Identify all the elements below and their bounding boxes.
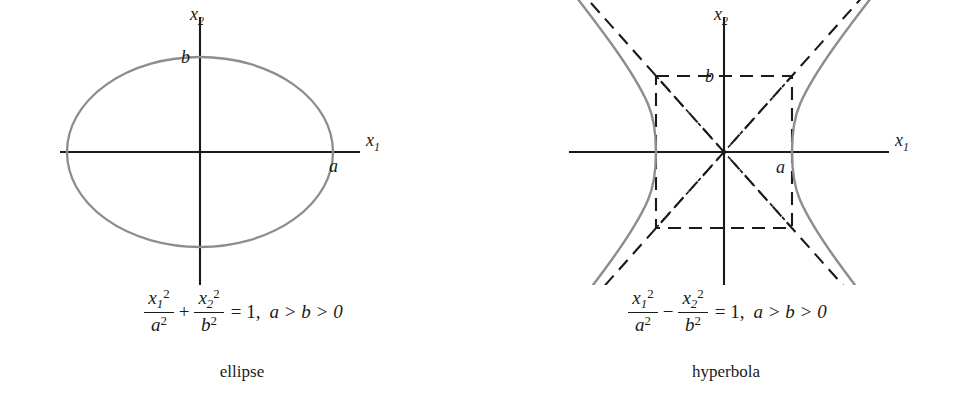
ellipse-equation-term-2: x22 b2 [194, 288, 223, 334]
ellipse-label-a: a [329, 156, 338, 176]
hyperbola-plot: x1 x2 b a [484, 0, 968, 285]
hyperbola-branch-right [792, 0, 899, 285]
ellipse-equation-term-1: x12 a2 [144, 288, 173, 334]
ellipse-equation-equals: = 1, [227, 302, 261, 321]
hyperbola-equation-term-2: x22 b2 [678, 288, 707, 334]
hyperbola-branch-left [549, 0, 656, 285]
hyperbola-label-a: a [776, 157, 785, 177]
hyperbola-caption: hyperbola [484, 362, 968, 382]
ellipse-equation-condition: a > b > 0 [260, 302, 342, 321]
ellipse-plot: x1 x2 b a [0, 0, 484, 285]
panel-hyperbola: x1 x2 b a x12 a2 − x22 b2 = 1,a > b > 0 [484, 0, 968, 406]
figure-sheet: x1 x2 b a x12 a2 + x22 b2 = 1,a > b > 0 [0, 0, 968, 406]
ellipse-equation-operator: + [177, 302, 192, 321]
hyperbola-equation-operator: − [661, 302, 676, 321]
ellipse-caption: ellipse [0, 362, 484, 382]
ellipse-label-b: b [181, 47, 190, 67]
hyperbola-equation: x12 a2 − x22 b2 = 1,a > b > 0 [484, 288, 968, 334]
ellipse-y-axis-label: x2 [189, 4, 204, 28]
panel-ellipse: x1 x2 b a x12 a2 + x22 b2 = 1,a > b > 0 [0, 0, 484, 406]
ellipse-x-axis-label: x1 [365, 130, 380, 154]
hyperbola-y-axis-label: x2 [713, 4, 728, 28]
hyperbola-equation-term-1: x12 a2 [628, 288, 657, 334]
hyperbola-label-b: b [705, 66, 714, 86]
hyperbola-x-axis-label: x1 [894, 130, 909, 154]
ellipse-equation: x12 a2 + x22 b2 = 1,a > b > 0 [0, 288, 484, 334]
hyperbola-equation-condition: a > b > 0 [744, 302, 826, 321]
hyperbola-equation-equals: = 1, [711, 302, 745, 321]
